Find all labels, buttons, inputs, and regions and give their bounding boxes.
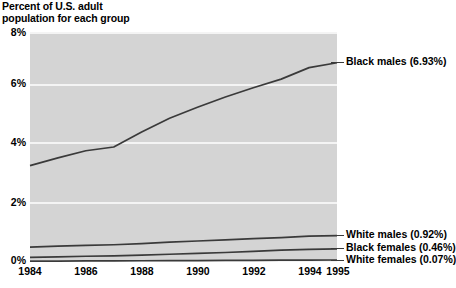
x-axis-tick-1990: 1990 [181, 266, 215, 277]
chart-title: Percent of U.S. adult population for eac… [2, 1, 212, 24]
y-axis-tick-4: 4% [0, 137, 26, 148]
legend-label-white-males: White males (0.92%) [346, 229, 447, 240]
x-axis-tick-1992: 1992 [237, 266, 271, 277]
series-layer [30, 32, 337, 262]
x-axis-tick-1995: 1995 [321, 266, 355, 277]
series-line-black-females [30, 249, 337, 258]
y-axis-tick-6: 6% [0, 78, 26, 89]
legend-leader-white-males [331, 235, 344, 236]
x-axis-tick-1988: 1988 [125, 266, 159, 277]
legend-label-black-females: Black females (0.46%) [346, 242, 456, 253]
legend-label-white-females: White females (0.07%) [346, 254, 456, 265]
legend-leader-black-females [331, 248, 344, 249]
x-axis-tick-1984: 1984 [13, 266, 47, 277]
legend-label-black-males: Black males (6.93%) [346, 56, 446, 67]
y-axis-tick-2: 2% [0, 197, 26, 208]
series-line-white-females [30, 260, 337, 261]
series-line-white-males [30, 236, 337, 248]
series-line-black-males [30, 63, 337, 166]
legend-leader-black-males [331, 62, 344, 63]
x-axis-tick-1986: 1986 [69, 266, 103, 277]
legend-leader-white-females [331, 260, 344, 261]
chart-figure: Percent of U.S. adult population for eac… [0, 0, 456, 288]
y-axis-tick-8: 8% [0, 27, 26, 38]
